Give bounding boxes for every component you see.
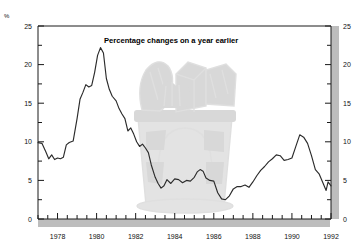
y-tick-label-left-20: 20 bbox=[24, 61, 32, 68]
y-tick-label-left-10: 10 bbox=[24, 138, 32, 145]
y-tick-label-right-0: 0 bbox=[343, 216, 347, 223]
y-tick-label-left-15: 15 bbox=[24, 100, 32, 107]
right-axis-band bbox=[331, 26, 339, 219]
chart-title: Percentage changes on a year earlier bbox=[104, 36, 238, 45]
y-tick-label-right-20: 20 bbox=[343, 61, 351, 68]
y-tick-label-left-0: 0 bbox=[28, 216, 32, 223]
bottom-axis-band bbox=[38, 219, 330, 227]
y-tick-label-right-10: 10 bbox=[343, 138, 351, 145]
line-chart: Percentage changes on a year earlier % 2… bbox=[0, 0, 362, 249]
x-tick-label: 1980 bbox=[89, 233, 105, 240]
chart-container: Percentage changes on a year earlier % 2… bbox=[0, 0, 362, 249]
x-tick-label: 1978 bbox=[50, 233, 66, 240]
y-tick-label-right-5: 5 bbox=[343, 177, 347, 184]
y-tick-label-right-25: 25 bbox=[343, 23, 351, 30]
y-tick-label-left-5: 5 bbox=[28, 177, 32, 184]
y-tick-label-left-25: 25 bbox=[24, 23, 32, 30]
x-tick-label: 1986 bbox=[206, 233, 222, 240]
x-tick-label: 1990 bbox=[284, 233, 300, 240]
y-axis-unit-label: % bbox=[4, 13, 10, 19]
x-tick-label: 1988 bbox=[245, 233, 261, 240]
x-tick-label: 1984 bbox=[167, 233, 183, 240]
x-tick-label: 1992 bbox=[323, 233, 339, 240]
watermark-shopping-basket-icon bbox=[134, 62, 236, 213]
y-tick-label-right-15: 15 bbox=[343, 100, 351, 107]
x-tick-label: 1982 bbox=[128, 233, 144, 240]
